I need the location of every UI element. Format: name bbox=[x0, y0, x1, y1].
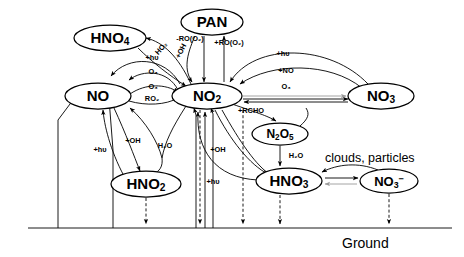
reaction-label-h2o-left: H₂O bbox=[158, 141, 173, 150]
node-no3[interactable]: NO3 bbox=[348, 83, 414, 109]
node-hno3[interactable]: HNO3 bbox=[256, 168, 322, 194]
node-hno2[interactable]: HNO2 bbox=[111, 171, 181, 197]
ground-label: Ground bbox=[342, 235, 389, 251]
node-pan[interactable]: PAN bbox=[181, 9, 243, 35]
no2-no3-arrows bbox=[230, 53, 368, 102]
node-no3m[interactable]: NO3− bbox=[360, 169, 418, 193]
reaction-label-oh-hno3: +OH bbox=[210, 145, 225, 154]
no2-hno3-arrows bbox=[198, 110, 272, 180]
node-no2[interactable]: NO2 bbox=[172, 83, 242, 109]
reaction-label-plus-no: +NO bbox=[278, 66, 294, 75]
hno3-nitrate-equilibrium bbox=[325, 178, 358, 184]
nitrate-return-arrow bbox=[322, 165, 378, 172]
reaction-label-rcho: +RCHO bbox=[238, 106, 264, 115]
reaction-label-hnu-no3: +hυ bbox=[276, 49, 289, 58]
reaction-label-o3-mid: O₃ bbox=[148, 82, 157, 91]
reaction-label-h2o-n2o5: H₂O bbox=[289, 151, 304, 160]
reaction-label-o3-top: O₃ bbox=[148, 67, 157, 76]
node-label: PAN bbox=[197, 13, 228, 30]
diagram-canvas: PANHNO4NONO2NO3N2O5HNO2HNO3NO3− -RO(O₂)+… bbox=[0, 0, 464, 257]
clouds-particles-label: clouds, particles bbox=[325, 151, 415, 165]
reaction-label-oh-hno2: +OH bbox=[125, 136, 140, 145]
reaction-label-hnu-bottom: +hυ bbox=[206, 177, 219, 186]
reaction-label-hnu-hno4: +hυ bbox=[145, 53, 158, 62]
node-no[interactable]: NO bbox=[65, 83, 131, 109]
reaction-label-o3-right: O₃ bbox=[281, 82, 290, 91]
reaction-label-pan-form: +RO(O₂) bbox=[214, 38, 244, 47]
reaction-label-hnu-hno2: +hυ bbox=[93, 145, 106, 154]
reaction-label-pan-loss: -RO(O₂) bbox=[176, 34, 204, 43]
reaction-label-oh-pan: +OH bbox=[173, 42, 188, 60]
hno2-arrows bbox=[103, 106, 186, 176]
reaction-label-ro2: RO₂ bbox=[145, 94, 159, 103]
node-hno4[interactable]: HNO4 bbox=[74, 25, 146, 51]
node-n2o5[interactable]: N2O5 bbox=[252, 123, 308, 145]
nitrogen-cycle-svg: PANHNO4NONO2NO3N2O5HNO2HNO3NO3− -RO(O₂)+… bbox=[0, 0, 464, 257]
node-label: NO bbox=[87, 87, 110, 104]
